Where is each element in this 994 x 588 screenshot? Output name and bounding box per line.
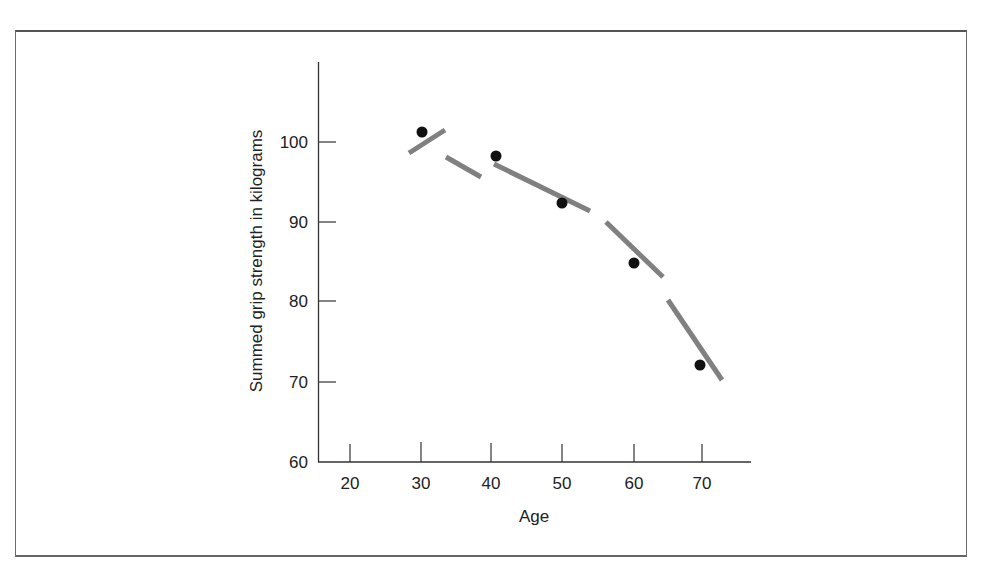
y-tick-label: 100 [280, 133, 308, 152]
x-tick-label: 30 [412, 474, 431, 493]
x-axis-title: Age [519, 507, 549, 526]
x-tick-label: 60 [625, 474, 644, 493]
y-tick-label: 80 [289, 292, 308, 311]
curve-segment [494, 164, 590, 211]
curve-segment [446, 157, 481, 177]
axes [318, 62, 751, 462]
fitted-curve [409, 130, 722, 380]
data-point-age-70 [695, 360, 706, 371]
y-tick-label: 70 [289, 373, 308, 392]
x-ticks [350, 442, 702, 462]
y-tick-labels: 100 90 80 70 60 [280, 133, 308, 472]
y-tick-label: 90 [289, 213, 308, 232]
x-tick-labels: 20 30 40 50 60 70 [341, 474, 712, 493]
curve-segment [668, 300, 722, 380]
data-point-age-40 [491, 151, 502, 162]
x-tick-label: 20 [341, 474, 360, 493]
x-tick-label: 50 [553, 474, 572, 493]
y-axis-title: Summed grip strength in kilograms [247, 130, 266, 393]
data-point-age-50 [557, 198, 568, 209]
curve-segment [606, 222, 663, 277]
y-tick-label: 60 [289, 453, 308, 472]
y-ticks [318, 142, 336, 382]
x-tick-label: 40 [482, 474, 501, 493]
chart: 100 90 80 70 60 20 30 40 50 60 70 Age Su… [0, 0, 994, 588]
data-point-age-30 [417, 127, 428, 138]
data-point-age-60 [629, 258, 640, 269]
x-tick-label: 70 [693, 474, 712, 493]
